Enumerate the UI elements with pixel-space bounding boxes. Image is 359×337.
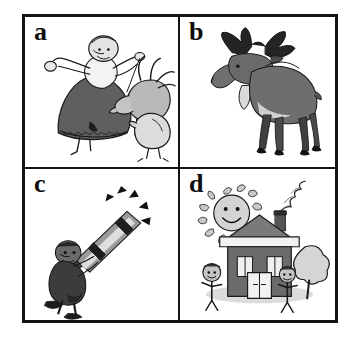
panel-b: b bbox=[180, 17, 335, 169]
panel-c: c bbox=[25, 169, 180, 321]
house-sun-children-illustration bbox=[180, 169, 335, 321]
panel-a: a bbox=[25, 17, 180, 169]
moose-illustration bbox=[180, 17, 335, 167]
figure-panel-grid: a bbox=[22, 14, 338, 323]
panel-d: d bbox=[180, 169, 335, 321]
woman-goat-hen-illustration bbox=[25, 17, 178, 167]
telescope-observer-illustration bbox=[25, 169, 178, 321]
